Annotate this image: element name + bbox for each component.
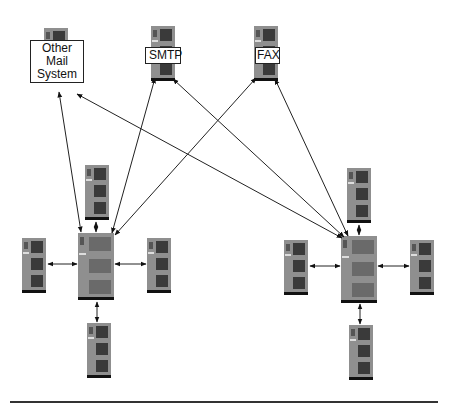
fax-label: FAX [255,47,280,64]
label-line: System [33,68,81,81]
label-line: Other Mail [33,42,81,68]
right-cluster [284,168,434,380]
other-mail-system-label: Other Mail System [30,40,84,83]
smtp-label: SMTP [145,47,181,64]
